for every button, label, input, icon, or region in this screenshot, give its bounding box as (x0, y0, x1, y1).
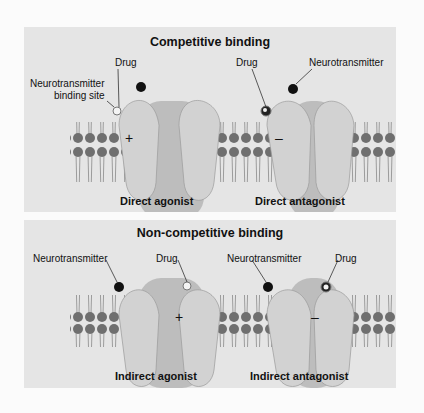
label-neurotransmitter: Neurotransmitter (309, 57, 383, 68)
competitive-binding-panel: Competitive binding Drug Neurotransmitte… (24, 27, 396, 212)
caption-indirect-agonist: Indirect agonist (115, 370, 197, 382)
label-drug: Drug (115, 57, 137, 68)
neurotransmitter-molecule (288, 84, 298, 94)
caption-direct-antagonist: Direct antagonist (255, 195, 345, 207)
neurotransmitter-molecule (263, 282, 273, 292)
receptor-indirect-agonist (106, 260, 220, 388)
label-binding-site: Neurotransmitter (30, 78, 104, 89)
panel-title: Non-competitive binding (24, 226, 396, 240)
binding-site-drug (113, 107, 121, 115)
label-drug: Drug (156, 253, 178, 264)
label-neurotransmitter: Neurotransmitter (227, 253, 301, 264)
drug-molecule (183, 282, 191, 290)
plus-sign: + (175, 309, 183, 325)
label-neurotransmitter: Neurotransmitter (33, 253, 107, 264)
panel-title: Competitive binding (24, 35, 396, 49)
caption-indirect-antagonist: Indirect antagonist (250, 370, 348, 382)
label-drug: Drug (236, 57, 258, 68)
minus-sign: – (275, 130, 283, 146)
non-competitive-binding-panel: Non-competitive binding Neurotransmitter… (24, 220, 396, 388)
caption-direct-agonist: Direct agonist (120, 195, 193, 207)
label-binding-site-2: binding site (54, 90, 105, 101)
receptor-direct-agonist (107, 69, 220, 212)
neurotransmitter-molecule (136, 82, 146, 92)
minus-sign: – (311, 309, 319, 325)
plus-sign: + (125, 130, 133, 146)
non-competitive-membrane-illustration (24, 220, 396, 388)
neurotransmitter-molecule (114, 282, 124, 292)
competitive-membrane-illustration (24, 27, 396, 212)
label-drug: Drug (335, 253, 357, 264)
